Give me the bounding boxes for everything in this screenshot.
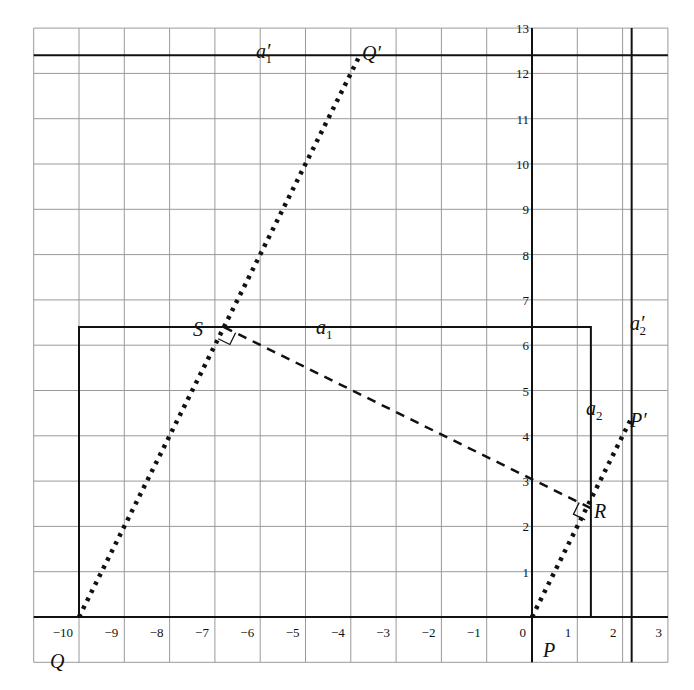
line-label-a2: a2: [586, 397, 603, 423]
x-tick-label: 0: [520, 625, 527, 640]
point-label-P: P: [542, 639, 555, 661]
x-tick-label: −6: [240, 625, 254, 640]
y-tick-label: 2: [523, 519, 530, 534]
y-tick-label: 9: [523, 202, 530, 217]
y-tick-label: 6: [523, 338, 530, 353]
x-tick-label: −5: [286, 625, 300, 640]
line-label-a1: a1: [316, 316, 333, 342]
x-tick-label: −7: [195, 625, 209, 640]
x-tick-label: 3: [655, 625, 662, 640]
rectangle-a1-a2: [79, 327, 591, 617]
x-tick-label: −1: [467, 625, 481, 640]
x-tick-label: −3: [376, 625, 390, 640]
segment-P-Pp-dotted: [532, 418, 632, 617]
y-tick-label: 12: [516, 66, 529, 81]
y-tick-label: 13: [516, 21, 529, 36]
grid: [34, 28, 668, 662]
x-tick-label: −10: [53, 625, 73, 640]
y-tick-label: 11: [516, 112, 529, 127]
y-tick-label: 1: [523, 565, 530, 580]
y-tick-label: 5: [523, 384, 530, 399]
line-label-a1-prime: a′1: [256, 40, 272, 66]
x-tick-label: 2: [610, 625, 617, 640]
segments: [79, 55, 632, 617]
point-label-P-prime: P′: [629, 409, 647, 431]
point-label-Q-prime: Q′: [362, 42, 381, 64]
geometry-figure: −10−9−8−7−6−5−4−3−2−10123123456789101112…: [0, 0, 694, 690]
y-tick-label: 3: [523, 474, 530, 489]
point-label-R: R: [593, 500, 606, 522]
x-tick-label: −4: [331, 625, 345, 640]
right-angle-markers: [218, 333, 585, 520]
point-and-line-labels: QSQ′PRP′a1a2a′1a′2: [50, 40, 647, 672]
x-tick-label: −2: [422, 625, 436, 640]
point-label-Q: Q: [50, 650, 65, 672]
y-tick-label: 4: [523, 429, 530, 444]
point-label-S: S: [193, 318, 203, 340]
y-tick-label: 7: [523, 293, 530, 308]
axis-tick-labels: −10−9−8−7−6−5−4−3−2−10123123456789101112…: [53, 21, 662, 640]
y-tick-label: 10: [516, 157, 529, 172]
x-tick-label: 1: [565, 625, 572, 640]
y-tick-label: 8: [523, 248, 530, 263]
x-tick-label: −9: [104, 625, 118, 640]
x-tick-label: −8: [150, 625, 164, 640]
